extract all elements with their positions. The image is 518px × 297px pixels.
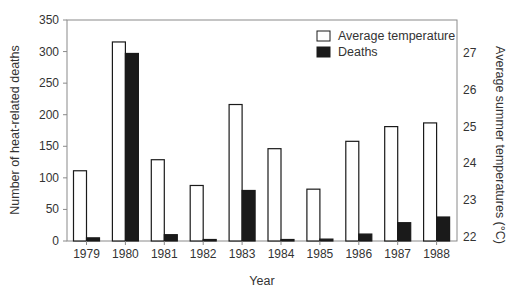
y2-tick-label: 26	[463, 83, 477, 97]
x-axis: 1979198019811982198319841985198619871988	[73, 241, 450, 261]
x-tick-label: 1982	[190, 247, 217, 261]
bar-deaths	[164, 235, 177, 241]
x-tick-label: 1983	[229, 247, 256, 261]
y2-tick-label: 25	[463, 120, 477, 134]
chart: 050100150200250300350 222324252627 19791…	[0, 0, 518, 297]
y-tick-label: 50	[46, 202, 60, 216]
legend-label-deaths: Deaths	[338, 45, 378, 59]
bar-average-temperature	[74, 171, 87, 241]
bar-average-temperature	[346, 141, 359, 241]
bar-average-temperature	[229, 105, 242, 241]
legend-swatch-deaths	[317, 47, 330, 57]
y-tick-label: 350	[39, 13, 59, 27]
x-tick-label: 1980	[112, 247, 139, 261]
bar-average-temperature	[424, 123, 437, 241]
y2-axis-title: Average summer temperatures (°C)	[493, 46, 507, 244]
bar-deaths	[281, 240, 294, 242]
bar-deaths	[437, 217, 450, 241]
x-tick-label: 1979	[73, 247, 100, 261]
bar-average-temperature	[190, 185, 203, 241]
x-tick-label: 1981	[151, 247, 178, 261]
y-tick-label: 0	[52, 234, 59, 248]
x-axis-title: Year	[249, 274, 274, 288]
bar-average-temperature	[112, 42, 125, 241]
x-tick-label: 1986	[345, 247, 372, 261]
y2-tick-label: 27	[463, 46, 477, 60]
y-tick-label: 150	[39, 139, 59, 153]
bar-average-temperature	[307, 189, 320, 241]
y-axis-title: Number of heat-related deaths	[8, 45, 22, 215]
x-tick-label: 1985	[307, 247, 334, 261]
bar-deaths	[242, 190, 255, 241]
bar-deaths	[125, 53, 138, 241]
bar-deaths	[203, 240, 216, 242]
x-tick-label: 1987	[384, 247, 411, 261]
bar-deaths	[320, 239, 333, 241]
x-tick-label: 1988	[423, 247, 450, 261]
y-tick-label: 250	[39, 76, 59, 90]
y-tick-label: 100	[39, 171, 59, 185]
x-tick-label: 1984	[268, 247, 295, 261]
bar-deaths	[87, 238, 100, 241]
y2-tick-label: 24	[463, 156, 477, 170]
legend-swatch-average-temperature	[317, 31, 330, 41]
y-axis-right: 222324252627	[463, 46, 477, 244]
bar-average-temperature	[268, 149, 281, 241]
bar-average-temperature	[385, 127, 398, 241]
y-tick-label: 300	[39, 45, 59, 59]
y2-tick-label: 22	[463, 230, 477, 244]
bar-deaths	[398, 223, 411, 241]
bars	[74, 42, 450, 241]
legend-label-average-temperature: Average temperature	[338, 29, 455, 43]
legend: Average temperature Deaths	[317, 29, 455, 59]
y2-tick-label: 23	[463, 193, 477, 207]
bar-deaths	[359, 234, 372, 241]
y-tick-label: 200	[39, 108, 59, 122]
y-axis-left: 050100150200250300350	[39, 13, 67, 248]
bar-average-temperature	[151, 160, 164, 241]
